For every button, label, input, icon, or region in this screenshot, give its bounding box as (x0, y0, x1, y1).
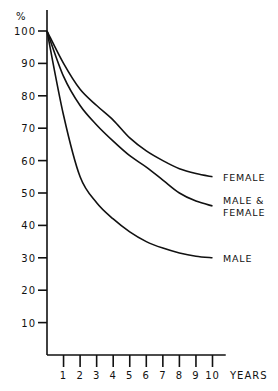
series-labels: FEMALEMALE &FEMALEMALE (223, 172, 265, 264)
axes (47, 10, 226, 355)
y-tick-label: 90 (21, 58, 36, 69)
y-axis-unit-label: % (16, 11, 27, 22)
x-axis-label: YEARS (229, 370, 268, 381)
series-label: FEMALE (223, 207, 265, 218)
x-tick-label: 9 (192, 370, 199, 381)
x-tick-label: 1 (60, 370, 67, 381)
y-tick-label: 80 (21, 91, 36, 102)
x-tick-label: 6 (143, 370, 150, 381)
series-label: MALE (223, 253, 252, 264)
x-tick-label: 3 (93, 370, 100, 381)
x-tick-label: 10 (205, 370, 220, 381)
y-axis-ticks: 102030405060708090100 (14, 26, 47, 329)
x-tick-label: 5 (126, 370, 133, 381)
series-label: MALE & (223, 195, 264, 206)
y-tick-label: 100 (14, 26, 36, 37)
y-tick-label: 30 (21, 253, 36, 264)
curves (47, 31, 213, 258)
y-tick-label: 20 (21, 285, 36, 296)
curve-male-female (47, 31, 213, 206)
y-tick-label: 50 (21, 188, 36, 199)
y-tick-label: 60 (21, 156, 36, 167)
y-tick-label: 70 (21, 123, 36, 134)
x-tick-label: 2 (76, 370, 83, 381)
y-tick-label: 40 (21, 220, 36, 231)
survival-chart: % 102030405060708090100 12345678910 YEAR… (0, 0, 278, 391)
x-tick-label: 4 (110, 370, 117, 381)
x-tick-label: 7 (159, 370, 166, 381)
x-tick-label: 8 (176, 370, 183, 381)
y-tick-label: 10 (21, 318, 36, 329)
series-label: FEMALE (223, 172, 265, 183)
curve-male (47, 31, 213, 258)
x-axis-ticks: 12345678910 (60, 355, 220, 381)
